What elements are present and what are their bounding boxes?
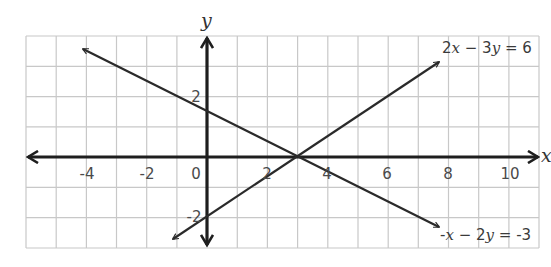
x-tick-label: 8: [443, 165, 453, 183]
grid: [26, 36, 539, 248]
x-tick-label: 6: [382, 165, 392, 183]
x-tick-labels: -4 -2 0 2 4 6 8 10: [80, 165, 520, 183]
x-tick-label: 0: [191, 165, 201, 183]
x-tick-label: 2: [262, 165, 272, 183]
y-tick-label-2: 2: [191, 88, 201, 106]
x-tick-label: -4: [80, 165, 95, 183]
x-tick-label: 4: [322, 165, 332, 183]
equation-label-2x-3y-6: 2x − 3y = 6: [442, 39, 532, 57]
x-tick-label: 10: [500, 165, 519, 183]
y-tick-label-neg2: -2: [187, 208, 202, 226]
y-axis-label: y: [200, 9, 212, 31]
coordinate-plane-chart: x y -4 -2 0 2 4 6 8 10 2 -2 2x − 3y = 6 …: [0, 0, 551, 267]
equation-label-neg-x-2y-neg3: -x − 2y = -3: [440, 226, 531, 244]
line-neg-x-minus-2y-eq-neg-3: [83, 49, 439, 227]
x-axis-label: x: [541, 144, 551, 166]
line-2x-minus-3y-eq-6: [173, 62, 439, 239]
x-tick-label: -2: [140, 165, 155, 183]
